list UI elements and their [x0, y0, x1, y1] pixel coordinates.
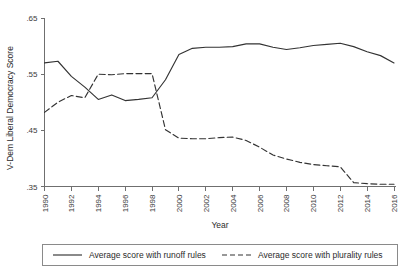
y-tick-label: .35	[26, 183, 38, 192]
y-axis-ticks: .65.55.45.35	[26, 14, 44, 192]
chart-figure: V-Dem Liberal Democracy Score .65.55.45.…	[0, 0, 405, 269]
y-axis-title: V-Dem Liberal Democracy Score	[5, 46, 15, 170]
x-tick-label: 2000	[175, 194, 184, 212]
x-tick-label: 2008	[282, 194, 291, 212]
x-tick-label: 1994	[94, 194, 103, 212]
x-axis-ticks: 1990199219941996199820002002200420062008…	[41, 187, 400, 213]
x-tick-label: 2016	[390, 194, 399, 212]
line-chart: V-Dem Liberal Democracy Score .65.55.45.…	[0, 0, 405, 269]
x-axis-title: Year	[211, 220, 228, 230]
series-line-runoff	[45, 43, 395, 100]
series-line-plurality	[45, 74, 395, 185]
x-tick-label: 1992	[67, 194, 76, 212]
legend-label-plurality: Average score with plurality rules	[258, 250, 383, 260]
legend-label-runoff: Average score with runoff rules	[89, 250, 206, 260]
x-tick-label: 1996	[121, 194, 130, 212]
x-tick-label: 2014	[363, 194, 372, 212]
x-tick-label: 1998	[148, 194, 157, 212]
y-tick-label: .55	[26, 70, 38, 79]
series-group	[45, 43, 395, 184]
chart-legend: Average score with runoff rules Average …	[43, 245, 398, 266]
x-tick-label: 2006	[256, 194, 265, 212]
x-tick-label: 2004	[229, 194, 238, 212]
x-tick-label: 2002	[202, 194, 211, 212]
x-tick-label: 2012	[336, 194, 345, 212]
x-tick-label: 1990	[41, 194, 50, 212]
y-tick-label: .45	[26, 126, 38, 135]
x-tick-label: 2010	[309, 194, 318, 212]
y-tick-label: .65	[26, 14, 38, 23]
